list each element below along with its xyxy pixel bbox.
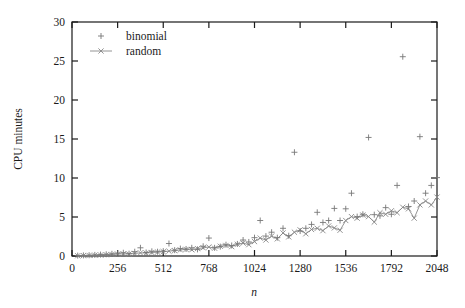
y-axis-title: CPU minutes: [12, 108, 24, 170]
x-axis-tick-labels: 025651276810241280153617922048: [69, 262, 449, 274]
x-tick-label: 1536: [334, 262, 357, 274]
y-tick-label: 0: [59, 250, 65, 262]
y-tick-label: 5: [59, 211, 65, 223]
x-tick-label: 1024: [243, 262, 266, 274]
x-tick-label: 2048: [426, 262, 449, 274]
x-tick-label: 1792: [380, 262, 403, 274]
x-tick-label: 0: [69, 262, 75, 274]
legend-label: binomial: [126, 30, 167, 42]
legend-label: random: [126, 45, 161, 57]
x-tick-label: 768: [200, 262, 218, 274]
chart-container: 025651276810241280153617922048 051015202…: [0, 0, 465, 308]
x-tick-label: 1280: [289, 262, 312, 274]
x-tick-label: 512: [155, 262, 173, 274]
x-tick-label: 256: [109, 262, 127, 274]
y-tick-label: 10: [54, 172, 66, 184]
y-tick-label: 20: [54, 94, 66, 106]
y-tick-label: 15: [54, 133, 66, 145]
x-axis-title: n: [251, 286, 257, 298]
cpu-minutes-scatter-chart: 025651276810241280153617922048 051015202…: [0, 0, 465, 308]
y-tick-label: 30: [54, 16, 66, 28]
y-tick-label: 25: [54, 55, 66, 67]
